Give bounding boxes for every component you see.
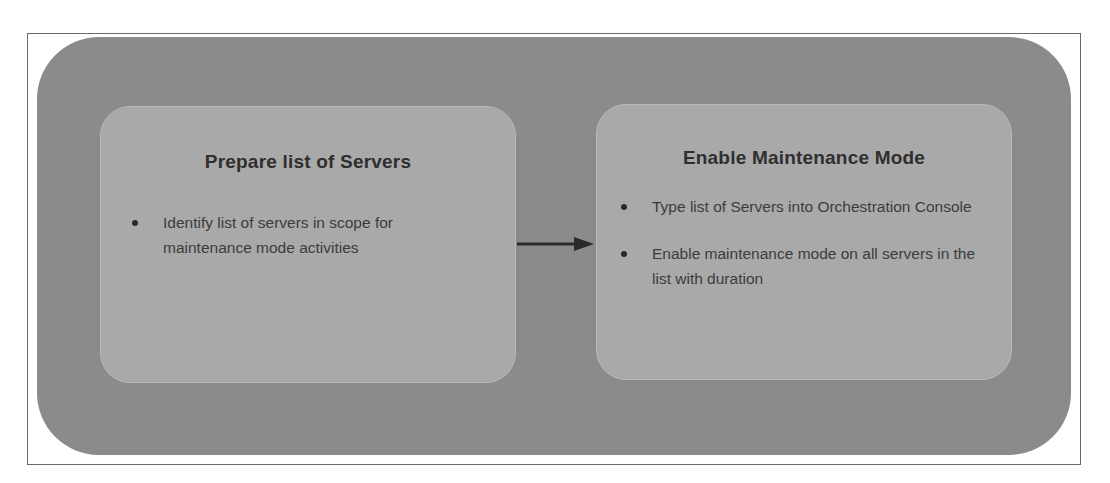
bullet-text: Type list of Servers into Orchestration … [652, 198, 972, 215]
bullet-icon [621, 251, 627, 257]
bullet-icon [132, 220, 138, 226]
bullet-text: Enable maintenance mode on all servers i… [652, 245, 975, 287]
step-prepare-list-of-servers: Prepare list of Servers Identify list of… [100, 106, 516, 383]
bullet-item: Identify list of servers in scope for ma… [163, 210, 483, 260]
bullet-icon [621, 204, 627, 210]
bullet-text: Identify list of servers in scope for ma… [163, 214, 393, 256]
step-bullet-list: Identify list of servers in scope for ma… [163, 210, 483, 282]
step-bullet-list: Type list of Servers into Orchestration … [652, 194, 982, 313]
arrow-right-icon [516, 236, 596, 252]
step-enable-maintenance-mode: Enable Maintenance Mode Type list of Ser… [596, 104, 1012, 380]
step-title: Enable Maintenance Mode [597, 147, 1011, 169]
bullet-item: Enable maintenance mode on all servers i… [652, 241, 982, 291]
bullet-item: Type list of Servers into Orchestration … [652, 194, 982, 219]
step-title: Prepare list of Servers [101, 151, 515, 173]
